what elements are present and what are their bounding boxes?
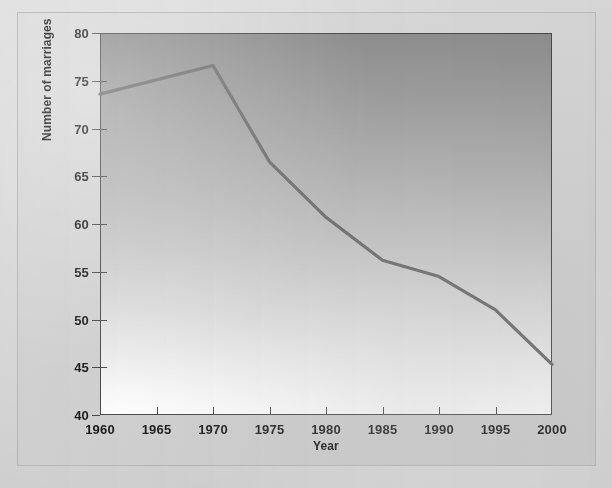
- x-tick-mark: [496, 407, 497, 415]
- y-tick-mark: [92, 176, 100, 177]
- x-tick-label: 1965: [142, 422, 172, 437]
- x-tick-label: 1960: [85, 422, 115, 437]
- y-tick-label: 80: [74, 26, 89, 41]
- x-tick-mark: [213, 407, 214, 415]
- x-tick-mark: [383, 407, 384, 415]
- y-tick-mark-inner: [100, 224, 107, 225]
- figure-panel: 404550556065707580 196019651970197519801…: [18, 13, 595, 465]
- y-tick-mark: [92, 33, 100, 34]
- y-tick-label: 75: [74, 73, 89, 88]
- y-tick-mark-inner: [100, 367, 107, 368]
- y-tick-mark-inner: [100, 81, 107, 82]
- y-axis-title: Number of marriages: [40, 18, 54, 141]
- y-tick-mark: [92, 320, 100, 321]
- y-tick-label: 70: [74, 121, 89, 136]
- y-tick-mark-inner: [100, 176, 107, 177]
- y-tick-label: 65: [74, 169, 89, 184]
- y-tick-mark: [92, 367, 100, 368]
- line-series-svg: [100, 33, 552, 415]
- x-tick-label: 1980: [311, 422, 341, 437]
- x-tick-label: 2000: [537, 422, 567, 437]
- x-tick-mark: [439, 407, 440, 415]
- y-tick-mark: [92, 81, 100, 82]
- x-tick-label: 1970: [198, 422, 228, 437]
- y-tick-mark: [92, 224, 100, 225]
- x-axis-title: Year: [100, 439, 552, 453]
- x-tick-mark: [157, 407, 158, 415]
- marriages-line: [100, 65, 552, 364]
- y-tick-label: 50: [74, 312, 89, 327]
- x-tick-label: 1975: [255, 422, 285, 437]
- x-tick-label: 1985: [368, 422, 398, 437]
- y-tick-mark-inner: [100, 320, 107, 321]
- y-tick-mark: [92, 272, 100, 273]
- y-tick-label: 60: [74, 217, 89, 232]
- x-tick-label: 1995: [481, 422, 511, 437]
- y-tick-label: 45: [74, 360, 89, 375]
- y-tick-mark: [92, 129, 100, 130]
- x-tick-label: 1990: [424, 422, 454, 437]
- y-tick-label: 40: [74, 408, 89, 423]
- y-tick-mark-inner: [100, 129, 107, 130]
- y-tick-label: 55: [74, 264, 89, 279]
- x-tick-mark: [326, 407, 327, 415]
- chart-plot-area: 404550556065707580 196019651970197519801…: [100, 33, 552, 415]
- y-tick-mark-inner: [100, 272, 107, 273]
- y-tick-mark: [92, 415, 100, 416]
- x-tick-mark: [270, 407, 271, 415]
